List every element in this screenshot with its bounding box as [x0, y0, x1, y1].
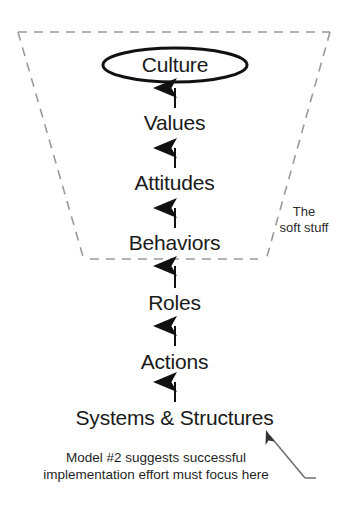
node-label-systems-and-structures: Systems & Structures	[0, 407, 349, 428]
soft-stuff-annotation: The soft stuff	[266, 204, 342, 236]
caption-line-1: Model #2 suggests successful	[6, 449, 306, 466]
node-label-actions: Actions	[0, 351, 349, 372]
node-label-culture: Culture	[103, 54, 247, 76]
diagram-graphics	[0, 0, 349, 514]
caption-line-2: implementation effort must focus here	[6, 466, 306, 483]
diagram-caption: Model #2 suggests successful implementat…	[6, 449, 306, 483]
node-label-values: Values	[0, 112, 349, 133]
node-label-roles: Roles	[0, 292, 349, 313]
node-label-attitudes: Attitudes	[0, 172, 349, 193]
soft-stuff-line-1: The	[266, 204, 342, 220]
soft-stuff-line-2: soft stuff	[266, 220, 342, 236]
diagram-canvas: Culture Values Attitudes Behaviors Roles…	[0, 0, 349, 514]
